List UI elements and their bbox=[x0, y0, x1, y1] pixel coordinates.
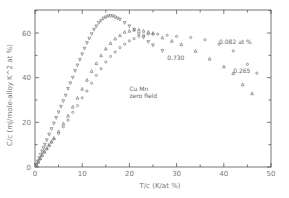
y-tick-label: 0 bbox=[27, 164, 31, 172]
data-point bbox=[123, 30, 126, 33]
data-point bbox=[119, 34, 122, 37]
data-point bbox=[119, 18, 122, 21]
data-point bbox=[58, 132, 60, 134]
data-point bbox=[204, 39, 206, 41]
data-point bbox=[45, 139, 48, 142]
data-point bbox=[142, 29, 145, 32]
data-point bbox=[81, 97, 83, 99]
data-point bbox=[180, 43, 183, 46]
data-point bbox=[222, 65, 225, 68]
data-point bbox=[97, 22, 100, 25]
data-point bbox=[76, 96, 79, 99]
data-point bbox=[67, 87, 70, 90]
data-point bbox=[83, 47, 86, 50]
y-tick-label: 60 bbox=[22, 30, 31, 38]
data-point bbox=[78, 58, 81, 61]
x-tick-label: 50 bbox=[267, 170, 276, 178]
data-point bbox=[256, 72, 258, 74]
data-point bbox=[57, 111, 60, 114]
annotation: zero field bbox=[129, 92, 157, 99]
data-point bbox=[88, 37, 91, 40]
data-point bbox=[62, 126, 64, 128]
x-tick-label: 30 bbox=[172, 170, 181, 178]
data-point bbox=[86, 90, 88, 92]
annotation: 0.082 at % bbox=[219, 38, 252, 45]
data-point bbox=[152, 44, 155, 47]
data-point bbox=[105, 61, 107, 63]
data-point bbox=[128, 29, 131, 32]
data-point bbox=[124, 43, 126, 45]
data-point bbox=[76, 64, 79, 67]
data-point bbox=[93, 28, 96, 31]
data-point bbox=[190, 36, 192, 38]
axes-box bbox=[35, 10, 271, 167]
data-point bbox=[147, 33, 149, 35]
data-point bbox=[62, 100, 65, 103]
data-point bbox=[114, 51, 116, 53]
data-point bbox=[104, 47, 107, 50]
data-point bbox=[176, 35, 178, 37]
data-point bbox=[166, 34, 168, 36]
data-point bbox=[246, 63, 248, 65]
data-point bbox=[128, 40, 130, 42]
annotations: Cu Mnzero field0.082 at %0.7300.265 bbox=[129, 38, 252, 99]
x-tick-label: 0 bbox=[33, 170, 37, 178]
data-point bbox=[42, 147, 45, 150]
x-tick-label: 40 bbox=[219, 170, 228, 178]
data-point bbox=[86, 42, 89, 45]
data-point bbox=[62, 122, 65, 125]
data-point bbox=[67, 119, 69, 121]
data-point bbox=[109, 42, 112, 45]
data-point bbox=[100, 68, 102, 70]
data-point bbox=[90, 70, 93, 73]
data-point bbox=[142, 34, 144, 36]
data-point bbox=[35, 164, 37, 166]
data-point bbox=[241, 83, 244, 86]
data-point bbox=[109, 55, 111, 57]
data-point bbox=[114, 37, 117, 40]
data-point bbox=[74, 70, 77, 73]
data-point bbox=[52, 122, 55, 125]
y-tick-label: 40 bbox=[22, 74, 31, 82]
annotation: 0.730 bbox=[167, 54, 184, 61]
data-point bbox=[86, 79, 89, 82]
data-point bbox=[44, 143, 47, 146]
data-point bbox=[81, 87, 84, 90]
data-point bbox=[104, 16, 107, 19]
y-tick-label: 20 bbox=[22, 119, 31, 127]
data-point bbox=[48, 133, 51, 136]
data-point bbox=[161, 36, 164, 39]
data-point bbox=[81, 53, 84, 56]
data-point bbox=[147, 41, 150, 44]
series-0.082 bbox=[35, 33, 258, 166]
data-point bbox=[119, 46, 121, 48]
y-axis-label: C/c (mJ/mole-alloy K^2 at %) bbox=[6, 44, 14, 146]
data-point bbox=[138, 35, 140, 37]
x-axis-label: T/c (K/at %) bbox=[138, 182, 180, 190]
data-point bbox=[72, 111, 74, 113]
data-point bbox=[91, 82, 93, 84]
plot-frame bbox=[35, 10, 271, 167]
data-point bbox=[161, 49, 164, 52]
data-point bbox=[208, 57, 211, 60]
data-point bbox=[95, 74, 97, 76]
data-point bbox=[50, 128, 53, 131]
data-point bbox=[71, 105, 74, 108]
data-point bbox=[76, 104, 78, 106]
data-point bbox=[232, 50, 234, 52]
data-point bbox=[95, 25, 98, 28]
data-point bbox=[60, 105, 63, 108]
data-point bbox=[251, 92, 254, 95]
data-point bbox=[133, 37, 135, 39]
specific-heat-chart: 010203040500204060 Cu Mnzero field0.082 … bbox=[0, 0, 289, 198]
data-point bbox=[90, 33, 93, 36]
data-point bbox=[137, 28, 140, 31]
data-point bbox=[128, 25, 131, 28]
x-tick-label: 20 bbox=[125, 170, 134, 178]
data-point bbox=[55, 116, 58, 119]
data-point bbox=[64, 94, 67, 97]
data-point bbox=[123, 22, 126, 25]
annotation: 0.265 bbox=[233, 67, 250, 74]
data-point bbox=[67, 114, 70, 117]
data-point bbox=[69, 82, 72, 85]
